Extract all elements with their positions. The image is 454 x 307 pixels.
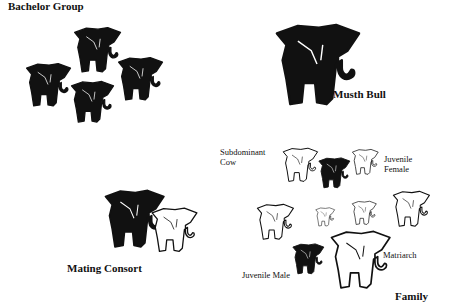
juvenile-male-label: Juvenile Male [242,270,290,280]
juvenile-female-label: Juvenile Female [384,154,412,174]
family-label: Family [395,290,428,302]
juvenile-male-elephant [290,242,326,276]
consort-cow-elephant [148,204,200,256]
bachelor-group-title: Bachelor Group [8,0,84,12]
matriarch-elephant [326,222,394,298]
matriarch-label: Matriarch [383,250,417,260]
juvenile-female-elephant [350,140,380,184]
subdominant-cow-elephant [280,137,320,193]
family-cow-right [390,180,432,238]
bachelor-elephant-4 [66,80,118,124]
family-dark-juvenile-1 [316,156,352,190]
subdominant-cow-label: Subdominant Cow [220,147,265,167]
musth-bull-label: Musth Bull [333,88,386,100]
mating-consort-label: Mating Consort [67,262,142,274]
bachelor-elephant-3 [114,56,166,102]
